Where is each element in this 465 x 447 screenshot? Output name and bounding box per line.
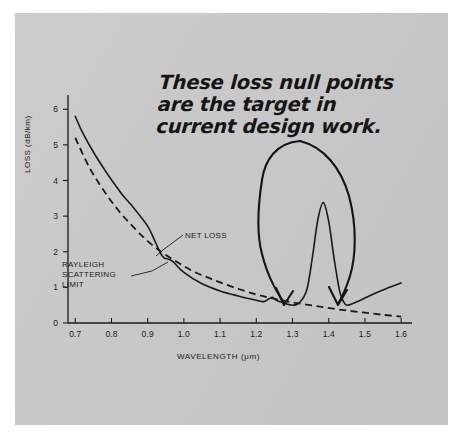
- rayleigh-annotation-line3: LIMIT: [62, 280, 84, 290]
- x-tick-label: 1.0: [169, 329, 199, 339]
- x-tick-label: 0.7: [60, 329, 90, 339]
- handdrawn-arrows: [258, 141, 355, 305]
- x-tick-label: 0.8: [96, 329, 126, 339]
- rayleigh-leader-line: [131, 262, 168, 276]
- y-tick-label: 0: [44, 318, 58, 328]
- x-tick-label: 1.5: [350, 329, 380, 339]
- arrow-left-head: [276, 288, 293, 305]
- y-tick-label: 5: [44, 140, 58, 150]
- rayleigh-annotation-line2: SCATTERING: [62, 270, 116, 280]
- x-tick-label: 1.1: [205, 329, 235, 339]
- loss-vs-wavelength-chart: [0, 0, 465, 447]
- x-tick-label: 1.6: [386, 329, 416, 339]
- y-tick-label: 4: [44, 176, 58, 186]
- x-axis-ticks: [75, 318, 401, 323]
- net-loss-annotation: NET LOSS: [185, 231, 227, 241]
- x-tick-label: 1.4: [314, 329, 344, 339]
- x-tick-label: 0.9: [133, 329, 163, 339]
- annotation-leader-lines: [131, 235, 183, 276]
- x-tick-label: 1.2: [241, 329, 271, 339]
- rayleigh-scattering-limit-curve: [75, 138, 401, 317]
- y-tick-label: 6: [44, 104, 58, 114]
- rayleigh-annotation-line1: RAYLEIGH: [62, 260, 104, 270]
- handwritten-note: These loss null points are the target in…: [156, 72, 411, 138]
- x-axis-title: WAVELENGTH (μm): [177, 352, 260, 361]
- y-tick-label: 2: [44, 247, 58, 257]
- y-tick-label: 3: [44, 211, 58, 221]
- x-tick-label: 1.3: [278, 329, 308, 339]
- y-tick-label: 1: [44, 282, 58, 292]
- y-axis-title: LOSS (dB/km): [23, 115, 32, 173]
- net-loss-leader-line: [156, 235, 183, 256]
- arrow-left-shaft: [258, 141, 300, 303]
- figure-root: 0.70.80.91.01.11.21.31.41.51.6 0123456 L…: [0, 0, 465, 447]
- y-axis-ticks: [63, 109, 68, 323]
